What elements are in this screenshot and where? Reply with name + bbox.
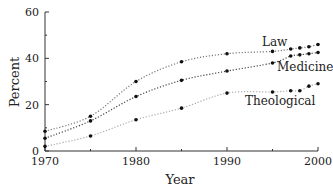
data-point-theological bbox=[180, 106, 184, 110]
series-line-law bbox=[45, 44, 318, 131]
x-tick-label: 1980 bbox=[122, 155, 150, 168]
data-point-medicine bbox=[298, 53, 302, 57]
series-label-theological: Theological bbox=[245, 94, 316, 108]
data-point-theological bbox=[43, 145, 47, 149]
data-point-medicine bbox=[43, 136, 47, 140]
data-point-theological bbox=[307, 84, 311, 88]
data-point-law bbox=[89, 114, 93, 118]
y-axis-title: Percent bbox=[7, 56, 22, 107]
data-point-medicine bbox=[316, 51, 320, 55]
data-point-theological bbox=[89, 134, 93, 138]
data-point-medicine bbox=[289, 54, 293, 58]
x-axis: 1970198019902000 bbox=[31, 147, 332, 168]
y-tick-label: 20 bbox=[25, 99, 39, 112]
line-chart: 0204060 1970198019902000 Percent Year La… bbox=[0, 0, 333, 193]
data-point-medicine bbox=[134, 95, 138, 99]
x-tick-label: 2000 bbox=[304, 155, 332, 168]
data-point-medicine bbox=[89, 119, 93, 123]
x-tick-label: 1990 bbox=[213, 155, 241, 168]
data-point-theological bbox=[298, 89, 302, 93]
x-tick-label: 1970 bbox=[31, 155, 59, 168]
data-point-law bbox=[307, 45, 311, 49]
data-point-theological bbox=[134, 118, 138, 122]
data-point-law bbox=[134, 80, 138, 84]
data-point-theological bbox=[289, 89, 293, 93]
data-point-theological bbox=[225, 91, 229, 95]
data-point-theological bbox=[316, 82, 320, 86]
data-point-medicine bbox=[271, 61, 275, 65]
data-point-medicine bbox=[180, 79, 184, 83]
series-label-medicine: Medicine bbox=[277, 60, 333, 74]
x-axis-title: Year bbox=[164, 172, 195, 187]
series-label-law: Law bbox=[262, 35, 288, 49]
data-point-law bbox=[316, 43, 320, 47]
y-tick-label: 60 bbox=[25, 6, 39, 19]
data-point-law bbox=[298, 46, 302, 50]
data-point-law bbox=[43, 130, 47, 134]
y-tick-label: 40 bbox=[25, 52, 39, 65]
data-point-law bbox=[271, 50, 275, 54]
data-point-law bbox=[180, 60, 184, 64]
y-axis: 0204060 bbox=[25, 6, 49, 158]
data-point-law bbox=[225, 52, 229, 56]
data-point-law bbox=[289, 47, 293, 51]
data-point-medicine bbox=[307, 52, 311, 56]
data-point-medicine bbox=[225, 69, 229, 73]
